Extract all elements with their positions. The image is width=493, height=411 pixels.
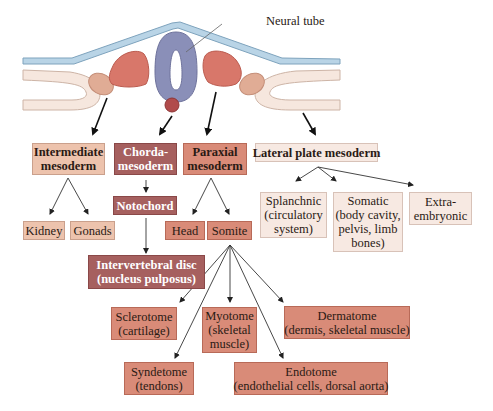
box-paraxial-mesoderm: Paraxial mesoderm — [183, 143, 247, 175]
line: Somatic — [348, 194, 389, 208]
line: Dermatome — [317, 309, 376, 323]
line: Extra- — [425, 195, 456, 209]
line: muscle) — [210, 337, 250, 351]
line: mesoderm — [41, 159, 97, 173]
lateral-plate-left — [23, 70, 100, 110]
line: mesoderm — [118, 159, 174, 173]
line: (tendons) — [135, 379, 182, 393]
line: Myotome — [205, 309, 254, 323]
line: mesoderm — [187, 159, 243, 173]
box-gonads: Gonads — [70, 221, 115, 240]
box-lateral-plate-mesoderm: Lateral plate mesoderm — [255, 143, 378, 162]
line: Sclerotome — [116, 310, 173, 324]
box-splanchnic: Splanchnic (circulatory system) — [260, 192, 327, 238]
line: Somite — [212, 224, 247, 238]
line: (cartilage) — [118, 324, 169, 338]
box-head: Head — [165, 221, 205, 240]
line: (nucleus pulposus) — [97, 272, 196, 286]
box-notochord: Notochord — [113, 196, 177, 215]
line: Syndetome — [131, 365, 187, 379]
line: Endotome — [285, 365, 336, 379]
line: (circulatory — [264, 208, 322, 222]
line: Intervertebral disc — [96, 258, 196, 272]
line: (endothelial cells, dorsal aorta) — [234, 379, 389, 393]
neural-tube — [155, 32, 197, 102]
lateral-plate-right — [255, 70, 340, 110]
line: Kidney — [26, 224, 63, 238]
box-extra-embryonic: Extra- embryonic — [409, 192, 472, 225]
line: Gonads — [73, 224, 111, 238]
line: Paraxial — [192, 145, 237, 159]
neural-tube-label: Neural tube — [266, 14, 325, 29]
box-chordamesoderm: Chorda- mesoderm — [114, 143, 177, 175]
box-somatic: Somatic (body cavity, pelvis, limb bones… — [333, 192, 403, 252]
box-dermatome: Dermatome (dermis, skeletal muscle) — [284, 306, 410, 339]
line: Splanchnic — [266, 194, 322, 208]
line: (dermis, skeletal muscle) — [284, 323, 409, 337]
box-intervertebral-disc: Intervertebral disc (nucleus pulposus) — [88, 255, 205, 289]
line: (body cavity, — [335, 208, 400, 222]
line: Head — [172, 224, 198, 238]
box-somite: Somite — [207, 221, 252, 240]
box-kidney: Kidney — [23, 221, 65, 240]
line: Notochord — [117, 199, 174, 213]
line: Chorda- — [123, 145, 168, 159]
primary-arrows — [93, 92, 315, 134]
line: system) — [274, 222, 313, 236]
paraxial-mesoderm-left — [109, 51, 148, 87]
box-intermediate-mesoderm: Intermediate mesoderm — [32, 143, 105, 175]
line: bones) — [351, 236, 384, 250]
line: Intermediate — [34, 145, 103, 159]
line: (skeletal — [208, 323, 250, 337]
box-syndetome: Syndetome (tendons) — [124, 362, 194, 395]
line: embryonic — [414, 209, 467, 223]
line: pelvis, limb — [338, 222, 397, 236]
box-myotome: Myotome (skeletal muscle) — [202, 307, 257, 353]
paraxial-mesoderm-right — [203, 51, 241, 86]
box-endotome: Endotome (endothelial cells, dorsal aort… — [234, 362, 388, 395]
box-sclerotome: Sclerotome (cartilage) — [111, 307, 177, 340]
notochord-dot — [165, 98, 179, 112]
line: Lateral plate mesoderm — [253, 146, 381, 160]
